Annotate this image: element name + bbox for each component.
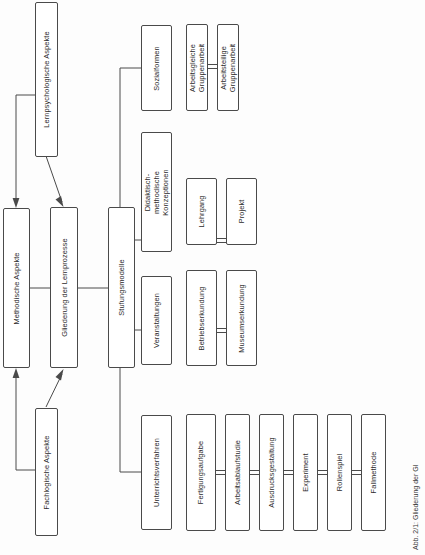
link-ausdruck-experiment <box>284 470 293 471</box>
node-methodische-aspekte[interactable]: Methodische Aspekte <box>3 208 30 368</box>
figure-caption: Abb. 2/1: Gliederung der Gl <box>412 465 419 550</box>
node-lernpsychologische-aspekte[interactable]: Lernpsychologische Aspekte <box>35 2 58 157</box>
node-arbeitsgleiche-gruppenarbeit[interactable]: Arbeitsgleiche Gruppenarbeit <box>186 24 208 111</box>
node-label: Stufungsmodelle <box>117 259 126 316</box>
link-rollenspiel-fallmethode <box>352 470 361 471</box>
node-label: Fallmethode <box>369 452 378 494</box>
node-veranstaltungen[interactable]: Veranstaltungen <box>141 276 172 365</box>
link-arbeitsgleiche-arbeitsteilige-2 <box>208 68 217 69</box>
node-lehrgang[interactable]: Lehrgang <box>186 178 217 245</box>
node-betriebserkundung[interactable]: Betriebserkundung <box>186 270 217 366</box>
node-didaktisch-methodische-konzeptionen[interactable]: Didaktisch-methodische Konzeptionen <box>141 132 172 252</box>
node-label: Veranstaltungen <box>152 293 161 348</box>
node-label: Rollenspiel <box>335 454 344 491</box>
link-rollenspiel-fallmethode-2 <box>352 474 361 475</box>
link-arbeitsgleiche-arbeitsteilige <box>208 64 217 65</box>
node-label: Methodische Aspekte <box>12 252 21 324</box>
node-label: Projekt <box>237 200 246 224</box>
link-fertigung-arbeitsablauf-2 <box>216 474 225 475</box>
node-label: Fachlogische Aspekte <box>42 435 51 509</box>
link-betrieb-museum-2 <box>217 332 226 333</box>
link-arbeitsablauf-ausdruck-2 <box>250 474 259 475</box>
node-gliederung-der-lernprozesse[interactable]: Gliederung der Lernprozesse <box>50 207 78 368</box>
node-label: Arbeitsteilige Gruppenarbeit <box>219 43 237 92</box>
link-lehrgang-projekt <box>217 238 226 239</box>
node-sozialformen[interactable]: Sozialformen <box>141 25 172 111</box>
node-label: Didaktisch-methodische Konzeptionen <box>143 169 170 215</box>
node-label: Lernpsychologische Aspekte <box>42 31 51 127</box>
node-arbeitsteilige-gruppenarbeit[interactable]: Arbeitsteilige Gruppenarbeit <box>217 24 239 111</box>
link-arbeitsablauf-ausdruck <box>250 470 259 471</box>
node-fallmethode[interactable]: Fallmethode <box>361 414 386 531</box>
link-ausdruck-experiment-2 <box>284 474 293 475</box>
arrowhead-to-gliederung-bottom <box>56 369 64 381</box>
link-betrieb-museum <box>217 328 226 329</box>
diagram-canvas: Lernpsychologische Aspekte Methodische A… <box>0 0 425 555</box>
arrowhead-to-methodische-bottom <box>13 368 20 378</box>
node-label: Ausdrucksgestaltung <box>267 437 276 508</box>
node-label: Lehrgang <box>197 195 206 227</box>
node-label: Experiment <box>301 453 310 491</box>
node-fertigungsaufgabe[interactable]: Fertigungsaufgabe <box>186 414 216 531</box>
node-fachlogische-aspekte[interactable]: Fachlogische Aspekte <box>35 408 58 536</box>
node-label: Arbeitsablaufstudie <box>233 440 242 505</box>
node-projekt[interactable]: Projekt <box>226 178 257 245</box>
link-experiment-rollenspiel <box>318 470 327 471</box>
node-label: Museumserkundung <box>237 284 246 353</box>
node-experiment[interactable]: Experiment <box>293 414 318 531</box>
arrowhead-to-methodische-top <box>13 198 20 208</box>
link-experiment-rollenspiel-2 <box>318 474 327 475</box>
node-label: Unterrichtsverfahren <box>152 438 161 507</box>
link-lehrgang-projekt-2 <box>217 242 226 243</box>
node-rollenspiel[interactable]: Rollenspiel <box>327 414 352 531</box>
node-stufungsmodelle[interactable]: Stufungsmodelle <box>108 207 135 368</box>
node-label: Sozialformen <box>152 46 161 90</box>
node-label: Arbeitsgleiche Gruppenarbeit <box>188 43 206 92</box>
node-label: Gliederung der Lernprozesse <box>60 238 69 336</box>
node-museumserkundung[interactable]: Museumserkundung <box>226 270 257 366</box>
node-label: Fertigungsaufgabe <box>197 441 206 504</box>
node-label: Betriebserkundung <box>197 286 206 350</box>
node-unterrichtsverfahren[interactable]: Unterrichtsverfahren <box>141 415 172 530</box>
node-arbeitsablaufstudie[interactable]: Arbeitsablaufstudie <box>225 414 250 531</box>
node-ausdrucksgestaltung[interactable]: Ausdrucksgestaltung <box>259 414 284 531</box>
link-fertigung-arbeitsablauf <box>216 470 225 471</box>
